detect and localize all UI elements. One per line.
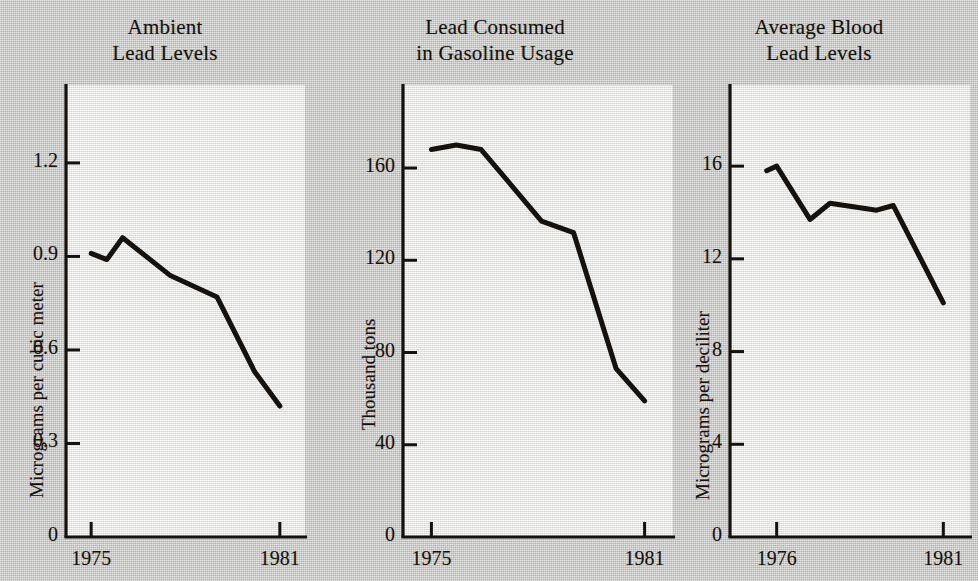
chart-panel-ambient-lead-levels: Ambient Lead Levels 00.30.60.91.21975198… [0,0,330,581]
data-series-line [91,238,280,406]
chart-canvas [0,0,330,581]
chart-panel-lead-consumed-in-gasoline-usage: Lead Consumed in Gasoline Usage 04080120… [330,0,660,581]
y-axis-label: Micrograms per cubic meter [26,282,48,498]
y-axis-label: Thousand tons [358,319,380,430]
data-series-line [431,145,644,401]
chart-panel-average-blood-lead-levels: Average Blood Lead Levels 04812161976198… [660,0,978,581]
y-axis-label: Micrograms per deciliter [692,311,714,500]
data-series-line [767,166,944,303]
chart-canvas [330,0,660,581]
